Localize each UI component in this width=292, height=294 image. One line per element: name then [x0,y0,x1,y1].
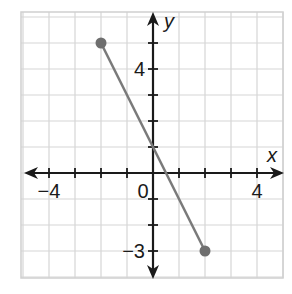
endpoint-dot [96,38,107,49]
y-axis-label: y [162,10,175,32]
x-tick-label: 4 [251,180,262,202]
x-axis-label: x [266,144,278,166]
x-tick-label: 0 [137,180,148,202]
x-tick-label: −4 [38,180,61,202]
y-tick-label: 4 [134,58,145,80]
y-tick-label: −3 [122,240,145,262]
axes [24,12,284,279]
endpoint-dot [200,246,211,257]
coordinate-plane: −4044−3xy [0,0,292,294]
